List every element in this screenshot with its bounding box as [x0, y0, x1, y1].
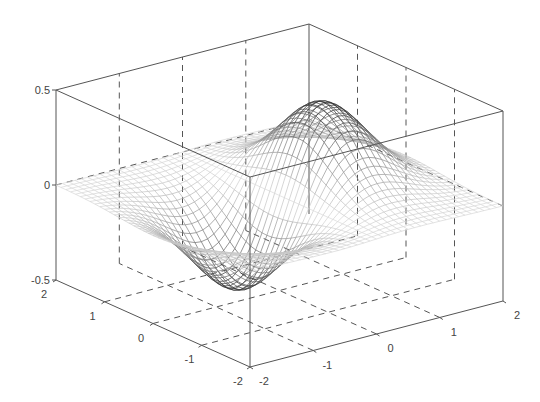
- mesh-segment: [94, 176, 99, 179]
- mesh-segment: [330, 196, 336, 206]
- mesh-segment: [356, 235, 361, 237]
- mesh-segment: [310, 175, 316, 191]
- mesh-segment: [268, 152, 273, 153]
- mesh-segment: [331, 228, 336, 229]
- mesh-segment: [142, 191, 148, 192]
- mesh-segment: [149, 164, 155, 166]
- mesh-segment: [363, 157, 369, 158]
- mesh-segment: [341, 226, 347, 230]
- mesh-segment: [216, 148, 222, 150]
- mesh-segment: [476, 201, 482, 202]
- mesh-segment: [481, 204, 486, 206]
- mesh-segment: [183, 167, 189, 170]
- mesh-segment: [137, 188, 142, 192]
- mesh-segment: [187, 154, 192, 156]
- mesh-segment: [311, 106, 317, 113]
- mesh-segment: [363, 200, 368, 206]
- mesh-segment: [219, 144, 224, 145]
- mesh-segment: [250, 259, 256, 260]
- mesh-segment: [82, 193, 87, 196]
- mesh-segment: [185, 189, 190, 195]
- mesh-segment: [231, 211, 237, 224]
- mesh-segment: [106, 206, 111, 209]
- mesh-segment: [337, 243, 342, 244]
- mesh-segment: [115, 181, 121, 182]
- mesh-segment: [369, 157, 374, 166]
- mesh-segment: [184, 164, 189, 167]
- mesh-segment: [392, 224, 398, 226]
- mesh-segment: [334, 149, 340, 157]
- mesh-segment: [227, 147, 233, 149]
- mesh-segment: [345, 247, 351, 249]
- mesh-segment: [161, 188, 167, 189]
- mesh-segment: [297, 206, 303, 222]
- mesh-segment: [317, 225, 322, 226]
- mesh-segment: [224, 145, 229, 146]
- mesh-segment: [198, 177, 204, 182]
- mesh-segment: [351, 233, 356, 235]
- mesh-segment: [294, 202, 299, 204]
- mesh-segment: [203, 153, 209, 156]
- mesh-segment: [129, 176, 134, 179]
- mesh-segment: [339, 249, 345, 251]
- mesh-segment: [153, 196, 159, 197]
- mesh-segment: [229, 144, 235, 146]
- mesh-segment: [196, 230, 202, 233]
- mesh-segment: [112, 190, 118, 191]
- mesh-segment: [106, 191, 112, 192]
- mesh-segment: [472, 196, 477, 199]
- mesh-segment: [263, 133, 268, 135]
- mesh-segment: [126, 185, 131, 189]
- mesh-segment: [204, 211, 210, 217]
- mesh-segment: [344, 172, 349, 180]
- mesh-segment: [87, 194, 93, 195]
- mesh-segment: [251, 230, 257, 247]
- mesh-segment: [275, 193, 280, 195]
- mesh-segment: [336, 229, 341, 230]
- mesh-segment: [326, 174, 332, 185]
- mesh-segment: [120, 185, 126, 186]
- mesh-segment: [201, 239, 207, 242]
- mesh-segment: [367, 232, 373, 234]
- mesh-segment: [450, 192, 456, 193]
- mesh-segment: [151, 179, 157, 181]
- mesh-segment: [234, 273, 240, 277]
- mesh-segment: [241, 178, 246, 180]
- mesh-segment: [171, 202, 176, 209]
- mesh-segment: [119, 170, 124, 173]
- mesh-segment: [123, 193, 129, 194]
- mesh-segment: [116, 177, 122, 178]
- mesh-segment: [452, 188, 458, 189]
- mesh-segment: [294, 260, 300, 262]
- mesh-segment: [454, 214, 459, 217]
- mesh-segment: [202, 181, 208, 186]
- mesh-segment: [379, 205, 385, 208]
- mesh-segment: [443, 211, 449, 212]
- mesh-segment: [102, 185, 107, 188]
- mesh-segment: [218, 157, 224, 161]
- mesh-segment: [343, 240, 348, 241]
- mesh-segment: [434, 186, 439, 190]
- mesh-segment: [365, 221, 370, 224]
- mesh-segment: [320, 185, 326, 198]
- mesh-segment: [486, 205, 492, 207]
- mesh-segment: [94, 174, 100, 176]
- mesh-segment: [177, 200, 182, 207]
- mesh-segment: [205, 165, 211, 169]
- mesh-segment: [445, 176, 450, 179]
- mesh-segment: [77, 189, 83, 190]
- mesh-segment: [390, 208, 396, 210]
- mesh-segment: [416, 223, 421, 226]
- mesh-segment: [168, 216, 174, 217]
- mesh-segment: [217, 204, 222, 211]
- mesh-segment: [417, 217, 423, 219]
- mesh-segment: [100, 207, 105, 210]
- mesh-segment: [388, 189, 393, 195]
- mesh-segment: [99, 177, 105, 178]
- mesh-segment: [366, 178, 371, 186]
- mesh-segment: [273, 196, 279, 217]
- mesh-segment: [275, 173, 281, 193]
- mesh-segment: [144, 186, 150, 187]
- mesh-segment: [126, 167, 132, 169]
- mesh-segment: [497, 206, 503, 208]
